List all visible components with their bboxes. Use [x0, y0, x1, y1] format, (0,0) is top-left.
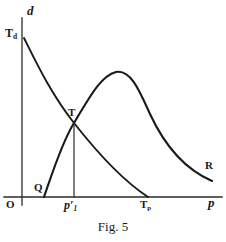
r-curve-label: R	[205, 160, 213, 171]
figure-caption: Fig. 5	[0, 219, 226, 235]
t-d-label: Td	[5, 27, 17, 41]
x-axis-label: p	[208, 196, 215, 209]
t-p-label-subscript: p	[147, 204, 151, 211]
resonance-curve	[44, 72, 212, 197]
t-intersection-label: T	[68, 107, 75, 118]
figure-5-container: d Td T R Q O p′1 Tp p Fig. 5	[0, 0, 226, 242]
t-d-label-main: T	[5, 26, 13, 40]
p-prime-1-main: p′	[64, 198, 73, 212]
t-p-label: Tp	[140, 199, 151, 212]
origin-label: O	[6, 199, 15, 210]
descending-curve	[24, 38, 148, 197]
p-prime-1-label: p′1	[64, 199, 77, 213]
p-prime-1-subscript: 1	[73, 204, 77, 213]
q-curve-label: Q	[34, 182, 43, 193]
t-d-label-subscript: d	[13, 32, 17, 41]
plot-drawing	[0, 0, 226, 242]
y-axis-label: d	[27, 4, 34, 17]
